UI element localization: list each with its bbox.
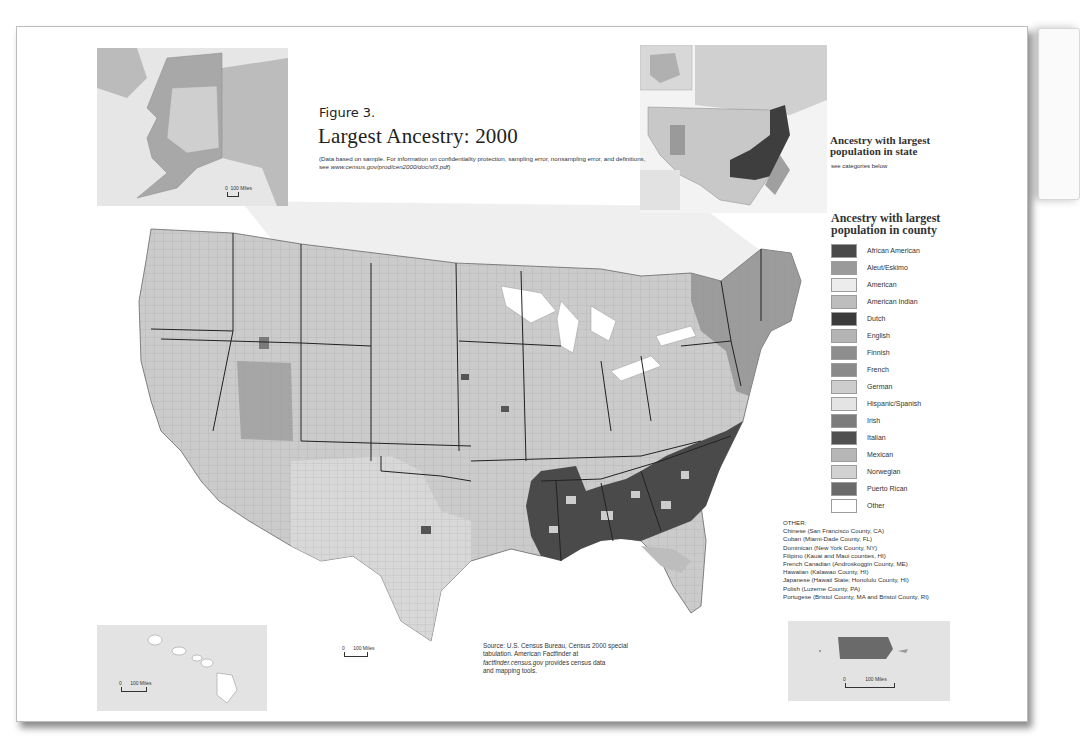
hawaii-inset-map: 0 100 Miles [97, 625, 267, 711]
puerto-rico-inset-map: 0 100 Miles [788, 621, 950, 701]
legend-item: Mexican [831, 446, 971, 463]
legend-item: English [831, 327, 971, 344]
other-item: Polish (Luzerne County, PA) [783, 585, 929, 593]
legend-label: German [867, 383, 892, 390]
figure-page: 0 100 Miles 0 100 Miles [16, 26, 1028, 722]
legend-swatch [831, 312, 857, 326]
legend-item: Hispanic/Spanish [831, 395, 971, 412]
alaska-scale-bar: 0 100 Miles [225, 185, 252, 191]
other-item: Chinese (San Francisco County, CA) [783, 527, 929, 535]
other-item: Japanese (Hawaii State; Honolulu County,… [783, 576, 929, 584]
legend-item: German [831, 378, 971, 395]
other-heading: OTHER: [783, 519, 929, 527]
legend-item: Dutch [831, 310, 971, 327]
adjacent-page-edge [1038, 28, 1080, 200]
legend-swatch [831, 380, 857, 394]
county-legend-title: Ancestry with largest population in coun… [831, 212, 971, 236]
legend-label: American [867, 281, 897, 288]
hawaii-scale-bar: 0 100 Miles [119, 680, 152, 686]
legend-swatch [831, 465, 857, 479]
other-item: Hawaiian (Kalawao County, HI) [783, 568, 929, 576]
legend-label: English [867, 332, 890, 339]
legend-swatch [831, 499, 857, 513]
other-item: Cuban (Miami-Dade County, FL) [783, 535, 929, 543]
legend-swatch [831, 295, 857, 309]
legend-swatch [831, 363, 857, 377]
legend-item: American [831, 276, 971, 293]
legend-label: Italian [867, 434, 886, 441]
source-note: Source: U.S. Census Bureau, Census 2000 … [483, 642, 693, 676]
legend-swatch [831, 261, 857, 275]
legend-swatch [831, 414, 857, 428]
legend-item: Irish [831, 412, 971, 429]
legend-label: Puerto Rican [867, 485, 907, 492]
legend-item: African American [831, 242, 971, 259]
legend-label: Hispanic/Spanish [867, 400, 921, 407]
alaska-inset-map: 0 100 Miles [97, 48, 288, 206]
other-item: Portugese (Bristol County, MA and Bristo… [783, 593, 929, 601]
legend-label: Dutch [867, 315, 885, 322]
legend-label: Aleut/Eskimo [867, 264, 908, 271]
legend-item: French [831, 361, 971, 378]
legend-label: Irish [867, 417, 880, 424]
legend-label: Other [867, 502, 885, 509]
legend-item: Aleut/Eskimo [831, 259, 971, 276]
figure-title: Largest Ancestry: 2000 [318, 124, 518, 149]
legend-label: Finnish [867, 349, 890, 356]
other-item: Dominican (New York County, NY) [783, 544, 929, 552]
legend-swatch [831, 431, 857, 445]
legend-label: American Indian [867, 298, 918, 305]
legend-item: Finnish [831, 344, 971, 361]
legend-swatch [831, 278, 857, 292]
legend-label: French [867, 366, 889, 373]
legend-item: Norwegian [831, 463, 971, 480]
legend-label: Norwegian [867, 468, 900, 475]
legend-swatch [831, 346, 857, 360]
county-legend: Ancestry with largest population in coun… [831, 212, 971, 514]
legend-label: African American [867, 247, 920, 254]
legend-item: Italian [831, 429, 971, 446]
factfinder-link[interactable]: factfinder.census.gov [483, 659, 543, 666]
other-ancestries-list: OTHER: Chinese (San Francisco County, CA… [783, 519, 929, 601]
figure-number: Figure 3. [319, 105, 375, 120]
legend-swatch [831, 448, 857, 462]
legend-swatch [831, 482, 857, 496]
legend-item: American Indian [831, 293, 971, 310]
figure-note: (Data based on sample. For information o… [319, 155, 649, 171]
other-item: French Canadian (Androskoggin County, ME… [783, 560, 929, 568]
legend-item: Other [831, 497, 971, 514]
other-item: Filipino (Kauai and Maui counties, HI) [783, 552, 929, 560]
legend-swatch [831, 329, 857, 343]
legend-swatch [831, 397, 857, 411]
puerto-rico-scale-bar: 0 100 Miles [843, 676, 887, 682]
state-legend-subtitle: see categories below [831, 163, 887, 169]
legend-item: Puerto Rican [831, 480, 971, 497]
legend-label: Mexican [867, 451, 893, 458]
legend-swatch [831, 244, 857, 258]
note-url-link[interactable]: www.census.gov/prod/cen2000/doc/sf3.pdf [331, 163, 449, 170]
main-map-scale-bar: 0 100 Miles [342, 645, 375, 651]
state-legend-title: Ancestry with largest population in stat… [830, 135, 930, 157]
state-ancestry-inset-map [640, 45, 827, 213]
